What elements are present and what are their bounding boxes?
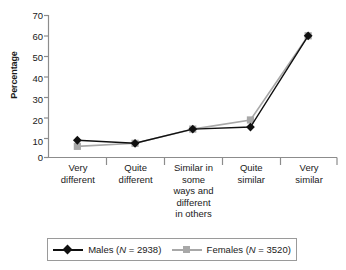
x-label-line: Quite [222, 162, 280, 174]
x-label-line: some [165, 174, 223, 186]
y-axis-ticks [44, 16, 49, 158]
x-label-line: Very [49, 162, 107, 174]
x-axis-category-labels: Very different Quite different Similar i… [49, 160, 338, 226]
legend-label-pre: Females ( [207, 244, 249, 255]
x-label-line: similar [280, 174, 338, 186]
x-label-line: in others [165, 208, 223, 220]
x-label-quite-different: Quite different [107, 160, 165, 226]
legend-entry-males: Males (N = 2938) [53, 244, 161, 255]
x-label-line: different [49, 174, 107, 186]
legend-label-n: N [249, 244, 256, 255]
plot-area [0, 0, 346, 270]
x-label-line: Quite [107, 162, 165, 174]
x-label-quite-similar: Quite similar [222, 160, 280, 226]
data-point-diamond [246, 123, 255, 132]
x-label-very-similar: Very similar [280, 160, 338, 226]
chart-legend: Males (N = 2938) Females (N = 3520) [47, 238, 297, 261]
x-label-line: different [165, 197, 223, 209]
x-label-similar-some-ways: Similar in some ways and different in ot… [165, 160, 223, 226]
series-males [73, 31, 313, 147]
square-marker-icon [172, 245, 202, 255]
legend-entry-females: Females (N = 3520) [172, 244, 291, 255]
legend-label-pre: Males ( [88, 244, 119, 255]
x-label-line: ways and [165, 185, 223, 197]
x-label-line: Very [280, 162, 338, 174]
legend-label-post: = 2938) [126, 244, 161, 255]
x-label-very-different: Very different [49, 160, 107, 226]
x-label-line: Similar in [165, 162, 223, 174]
x-label-line: similar [222, 174, 280, 186]
legend-label-post: = 3520) [256, 244, 291, 255]
x-label-line: different [107, 174, 165, 186]
legend-label-females: Females (N = 3520) [207, 244, 291, 255]
legend-label-males: Males (N = 2938) [88, 244, 161, 255]
diamond-marker-icon [53, 245, 83, 255]
line-chart: Percentage 70 60 50 40 30 20 10 0 [0, 0, 346, 270]
